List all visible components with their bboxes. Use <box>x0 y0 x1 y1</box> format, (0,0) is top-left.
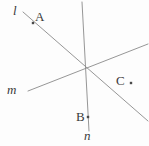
point-marker-b <box>87 116 89 118</box>
point-marker-a <box>32 22 34 24</box>
line-label-l: l <box>13 4 17 17</box>
point-marker-c <box>130 82 132 84</box>
point-label-c: C <box>116 74 125 87</box>
geometry-figure: l A m C B n <box>0 0 149 146</box>
line-label-n: n <box>84 129 91 142</box>
point-label-b: B <box>76 110 85 123</box>
figure-canvas <box>0 0 149 146</box>
line-label-m: m <box>7 83 16 96</box>
point-label-a: A <box>35 10 44 23</box>
